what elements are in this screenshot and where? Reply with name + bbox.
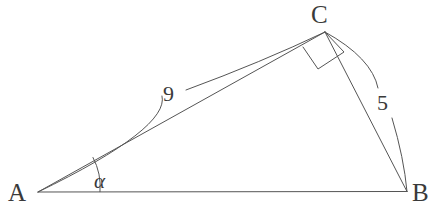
vertex-label-c: C bbox=[311, 2, 328, 27]
side-length-label-ac: 9 bbox=[163, 83, 174, 105]
leader-arc-cb-lower bbox=[392, 118, 407, 192]
geometry-diagram: A B C 9 5 α bbox=[0, 0, 439, 217]
angle-label-alpha: α bbox=[94, 171, 105, 192]
leader-arc-ac-upper bbox=[186, 32, 325, 90]
right-angle-square-c bbox=[303, 32, 344, 69]
side-length-label-cb: 5 bbox=[377, 92, 388, 114]
diagram-canvas bbox=[0, 0, 439, 217]
segment-ac bbox=[38, 32, 325, 192]
vertex-label-b: B bbox=[412, 180, 429, 205]
vertex-label-a: A bbox=[8, 180, 26, 205]
